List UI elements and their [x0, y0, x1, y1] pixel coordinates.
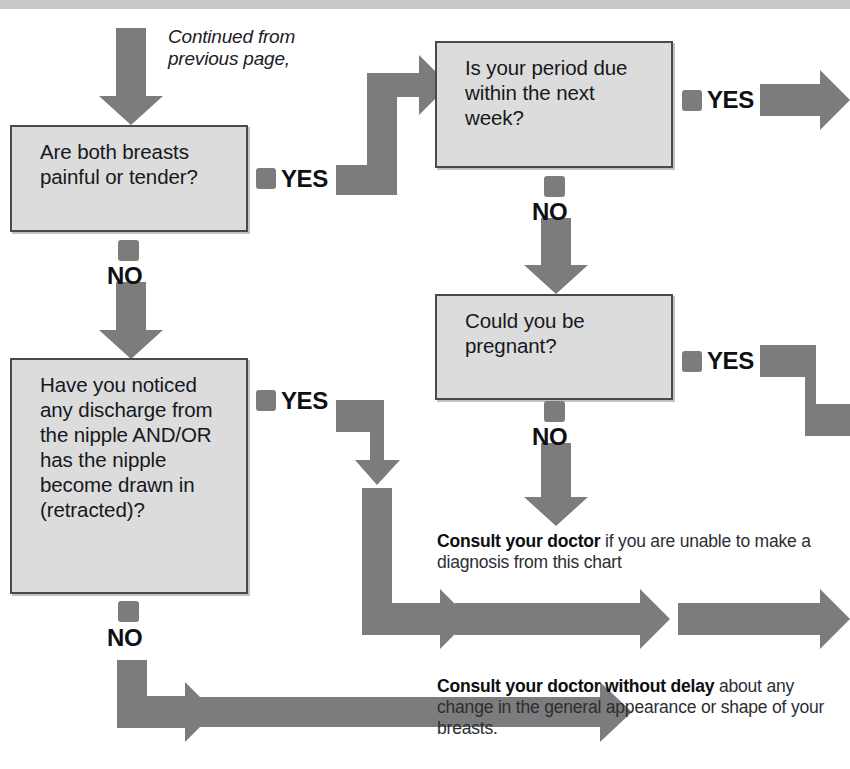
q4-no-down-arrow: [524, 443, 588, 526]
q1-no-down-arrow: [99, 282, 163, 359]
q3-yes-marker-icon: [256, 390, 276, 411]
q3-yes-label: YES: [281, 389, 328, 413]
q2-no-marker-icon: [544, 176, 565, 197]
continued-from-note: Continued from previous page,: [168, 26, 295, 70]
q3-no-elbow-arrow: [117, 660, 215, 742]
q4-no-label: NO: [532, 425, 567, 449]
q3-no-label: NO: [107, 626, 142, 650]
q2-yes-right-arrow: [760, 70, 850, 130]
question-box-breasts-painful[interactable]: Are both breasts painful or tender?: [10, 125, 248, 232]
bottom-right-arrow: [678, 589, 850, 649]
question-text: Is your period due within the next week?: [465, 55, 653, 130]
q3-yes-elbow-arrow: [336, 400, 400, 485]
advice-bold-lead: Consult your doctor: [437, 531, 600, 551]
q1-no-marker-icon: [118, 240, 139, 261]
question-text: Are both breasts painful or tender?: [40, 139, 230, 189]
q4-yes-label: YES: [707, 349, 754, 373]
q1-yes-elbow-arrow: [336, 55, 449, 195]
bottom-mid-right-arrow: [455, 589, 670, 649]
continued-note-line1: Continued from: [168, 26, 295, 48]
q3-no-marker-icon: [118, 601, 139, 622]
q1-no-label: NO: [107, 264, 142, 288]
question-box-nipple-discharge[interactable]: Have you noticed any discharge from the …: [10, 358, 248, 594]
q4-no-marker-icon: [544, 401, 565, 422]
entry-down-arrow: [99, 28, 163, 125]
question-text: Have you noticed any discharge from the …: [40, 372, 226, 522]
q4-yes-marker-icon: [682, 351, 702, 372]
q2-no-label: NO: [532, 200, 567, 224]
advice-consult-doctor-diagnosis: Consult your doctor if you are unable to…: [437, 531, 837, 573]
q1-yes-marker-icon: [256, 168, 276, 189]
q1-yes-label: YES: [281, 167, 328, 191]
q2-yes-marker-icon: [682, 90, 702, 111]
continued-note-line2: previous page,: [168, 48, 295, 70]
advice-bold-lead: Consult your doctor without delay: [437, 676, 714, 696]
q4-yes-elbow-arrow: [760, 345, 850, 436]
q2-no-down-arrow: [524, 218, 588, 294]
q2-yes-label: YES: [707, 88, 754, 112]
question-box-period-due[interactable]: Is your period due within the next week?: [435, 41, 673, 168]
question-text: Could you be pregnant?: [465, 308, 655, 358]
question-box-pregnant[interactable]: Could you be pregnant?: [435, 294, 673, 400]
advice-consult-doctor-without-delay: Consult your doctor without delay about …: [437, 676, 837, 739]
top-band-divider: [0, 0, 850, 9]
flowchart-page: Continued from previous page, Are both b…: [0, 0, 850, 769]
